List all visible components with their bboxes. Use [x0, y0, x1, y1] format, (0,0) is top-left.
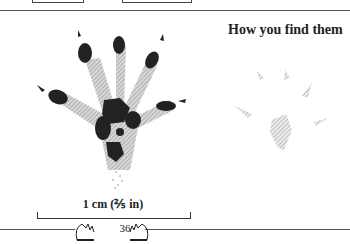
found-footprint-illustration	[230, 70, 340, 180]
footer-line-left	[0, 229, 75, 230]
page-number: 36	[105, 222, 145, 234]
footer-line-right	[145, 229, 350, 230]
top-box-right	[122, 0, 192, 3]
section-heading: How you find them	[228, 22, 343, 38]
frog-footprint-illustration	[20, 30, 200, 195]
scale-label: 1 cm (⅖ in)	[37, 197, 189, 212]
top-box-left	[32, 0, 84, 3]
scale-bar	[37, 212, 191, 219]
top-divider	[0, 10, 350, 11]
